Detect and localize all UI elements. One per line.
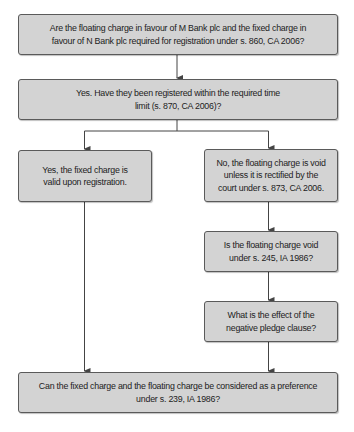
node-fixed-charge-valid: Yes, the fixed charge is valid upon regi… — [18, 150, 152, 202]
node-floating-charge-void: No, the floating charge is void unless i… — [204, 149, 338, 202]
node-text: Yes. Have they been registered within th… — [37, 87, 319, 112]
node-registration-question: Are the floating charge in favour of M B… — [18, 14, 338, 55]
node-time-limit-question: Yes. Have they been registered within th… — [18, 79, 338, 120]
node-text: Is the floating charge void under s. 245… — [216, 239, 326, 264]
node-negative-pledge-question: What is the effect of the negative pledg… — [204, 301, 338, 342]
node-text: Can the fixed charge and the floating ch… — [37, 380, 319, 405]
node-text: Are the floating charge in favour of M B… — [37, 22, 319, 47]
node-s245-question: Is the floating charge void under s. 245… — [204, 231, 338, 272]
node-preference-question: Can the fixed charge and the floating ch… — [18, 372, 338, 413]
node-text: No, the floating charge is void unless i… — [216, 157, 326, 195]
node-text: Yes, the fixed charge is valid upon regi… — [30, 164, 140, 189]
connectors-layer — [0, 0, 354, 432]
node-text: What is the effect of the negative pledg… — [216, 309, 326, 334]
